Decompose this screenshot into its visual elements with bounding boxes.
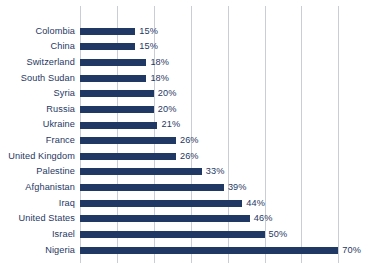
bar-group: 46%	[80, 215, 272, 222]
bar-group: 18%	[80, 75, 169, 82]
category-label: China	[50, 42, 75, 51]
category-label: Palestine	[36, 167, 75, 176]
bar-group: 21%	[80, 122, 180, 129]
category-label: Israel	[52, 230, 75, 239]
bar-group: 50%	[80, 231, 287, 238]
bar-group: 26%	[80, 153, 199, 160]
bar-row: Russia20%	[0, 102, 376, 118]
bar-value-label: 50%	[269, 230, 288, 239]
category-label: Afghanistan	[25, 183, 75, 192]
bar-row: Iraq44%	[0, 195, 376, 211]
category-label: Russia	[46, 105, 75, 114]
bar-chart: Colombia15%China15%Switzerland18%South S…	[0, 0, 376, 265]
bar-row: Israel50%	[0, 227, 376, 243]
bar-value-label: 33%	[206, 167, 225, 176]
bar	[80, 153, 176, 160]
bar-group: 70%	[80, 247, 361, 254]
bar-value-label: 21%	[161, 120, 180, 129]
chart-plot-area: Colombia15%China15%Switzerland18%South S…	[0, 0, 376, 265]
bar-value-label: 20%	[158, 89, 177, 98]
bar	[80, 28, 135, 35]
bar	[80, 215, 250, 222]
bar-group: 33%	[80, 168, 224, 175]
bar-row: Palestine33%	[0, 164, 376, 180]
category-label: France	[46, 136, 75, 145]
bar-group: 44%	[80, 200, 265, 207]
bar-row: Switzerland18%	[0, 55, 376, 71]
bar-row: France26%	[0, 133, 376, 149]
bar-group: 20%	[80, 90, 177, 97]
bar-row: Ukraine21%	[0, 117, 376, 133]
bar	[80, 75, 146, 82]
bar-value-label: 26%	[180, 152, 199, 161]
bar-group: 39%	[80, 184, 247, 191]
bar	[80, 184, 224, 191]
bar-value-label: 44%	[246, 199, 265, 208]
bar	[80, 231, 265, 238]
category-label: Switzerland	[26, 58, 75, 67]
bar-group: 15%	[80, 28, 158, 35]
category-label: Ukraine	[43, 120, 75, 129]
bar	[80, 59, 146, 66]
bar-value-label: 39%	[228, 183, 247, 192]
bar-group: 20%	[80, 106, 177, 113]
bar-value-label: 20%	[158, 105, 177, 114]
bar-row: United States46%	[0, 211, 376, 227]
category-label: South Sudan	[21, 74, 75, 83]
bar-value-label: 15%	[139, 42, 158, 51]
bar-value-label: 26%	[180, 136, 199, 145]
bar	[80, 200, 242, 207]
category-label: United States	[19, 214, 75, 223]
bar-row: South Sudan18%	[0, 70, 376, 86]
bar	[80, 90, 154, 97]
bar	[80, 168, 202, 175]
bar-value-label: 18%	[150, 74, 169, 83]
bar-row: Colombia15%	[0, 24, 376, 40]
bar	[80, 43, 135, 50]
category-label: Nigeria	[45, 246, 75, 255]
bar-row: China15%	[0, 39, 376, 55]
bar-row: Afghanistan39%	[0, 180, 376, 196]
category-label: United Kingdom	[8, 152, 75, 161]
bar-group: 18%	[80, 59, 169, 66]
bar-row: Syria20%	[0, 86, 376, 102]
bar-group: 15%	[80, 43, 158, 50]
bar-value-label: 70%	[342, 246, 361, 255]
category-label: Colombia	[35, 27, 75, 36]
category-label: Syria	[54, 89, 75, 98]
bar-row: United Kingdom26%	[0, 149, 376, 165]
bar-row: Nigeria70%	[0, 242, 376, 258]
bar-value-label: 15%	[139, 27, 158, 36]
bar-value-label: 46%	[254, 214, 273, 223]
bar	[80, 137, 176, 144]
category-label: Iraq	[59, 199, 75, 208]
bar-group: 26%	[80, 137, 199, 144]
bar	[80, 247, 338, 254]
bar	[80, 106, 154, 113]
bar-value-label: 18%	[150, 58, 169, 67]
bar	[80, 122, 157, 129]
